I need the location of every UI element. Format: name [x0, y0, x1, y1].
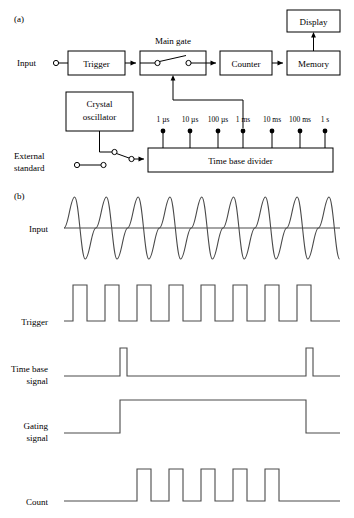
time-base-signal-waveform — [64, 348, 340, 376]
arrow-gate-to-counter-icon — [211, 61, 217, 66]
tap-dot-10us-icon — [188, 129, 193, 134]
external-standard-terminal-icon — [74, 162, 79, 167]
waveform-label-gating-line2: signal — [27, 433, 49, 443]
figure-svg: (a) (b) Main gate Input Trigger — [0, 0, 354, 518]
gating-signal-waveform — [64, 400, 340, 433]
selector-common-contact-icon — [129, 156, 134, 161]
block-crystal-oscillator-label-line2: oscillator — [83, 112, 117, 122]
block-diagram: Main gate Input Trigger Counter — [14, 10, 340, 173]
block-memory-label: Memory — [298, 59, 329, 69]
block-crystal-oscillator-label-line1: Crystal — [87, 99, 113, 109]
trigger-waveform — [64, 285, 340, 321]
wire-oscillator-to-switch — [100, 131, 113, 152]
external-standard-label-line1: External — [14, 151, 45, 161]
input-terminal-icon — [53, 60, 58, 65]
count-waveform — [64, 469, 340, 501]
tap-dot-100ms-icon — [298, 129, 303, 134]
time-base-taps — [161, 129, 328, 148]
tap-label-10us: 10 µs — [182, 115, 199, 124]
arrow-memory-to-display-icon — [311, 32, 316, 38]
gate-contact-left-icon — [155, 60, 160, 65]
waveform-label-time-base-line2: signal — [27, 376, 49, 386]
panel-b-label: (b) — [14, 191, 25, 201]
gate-contact-right-icon — [186, 60, 191, 65]
waveform-label-input: Input — [29, 224, 48, 234]
waveform-panel: Input Trigger Time base signal Gating si… — [11, 197, 340, 507]
block-display-label: Display — [300, 17, 328, 27]
tap-label-1s: 1 s — [321, 115, 330, 124]
block-trigger-label: Trigger — [83, 59, 110, 69]
tap-label-100us: 100 µs — [208, 115, 228, 124]
tap-dot-1us-icon — [161, 129, 166, 134]
selector-contact-top-icon — [112, 149, 117, 154]
selector-contact-bottom-icon — [101, 162, 106, 167]
waveform-label-gating-line1: Gating — [24, 421, 49, 431]
arrow-gate-control-icon — [171, 75, 176, 81]
tap-dot-100us-icon — [216, 129, 221, 134]
tap-dot-1ms-icon — [241, 129, 246, 134]
arrow-trigger-to-gate-icon — [131, 61, 137, 66]
tap-label-1us: 1 µs — [157, 115, 170, 124]
panel-a-label: (a) — [14, 14, 24, 24]
main-gate-title: Main gate — [155, 36, 191, 46]
tap-label-100ms: 100 ms — [289, 115, 311, 124]
waveform-label-time-base-line1: Time base — [11, 364, 48, 374]
block-time-base-divider-label: Time base divider — [208, 156, 273, 166]
block-counter-label: Counter — [232, 59, 261, 69]
input-label: Input — [17, 58, 36, 68]
tap-dot-1s-icon — [323, 129, 328, 134]
figure-canvas: (a) (b) Main gate Input Trigger — [0, 0, 354, 518]
arrow-switch-to-divider-icon — [139, 157, 145, 162]
external-standard-label-line2: standard — [14, 163, 45, 173]
waveform-label-trigger: Trigger — [21, 317, 48, 327]
selector-blade-icon — [117, 154, 130, 159]
waveform-label-count: Count — [26, 497, 49, 507]
tap-dot-10ms-icon — [270, 129, 275, 134]
arrow-counter-to-memory-icon — [278, 61, 284, 66]
tap-label-10ms: 10 ms — [263, 115, 281, 124]
